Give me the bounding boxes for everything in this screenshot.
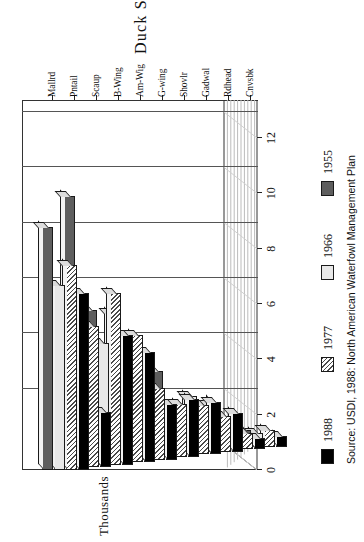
y-tick-mark [257, 248, 262, 249]
legend-item[interactable]: 1977 [318, 326, 334, 372]
legend-swatch-1988 [321, 449, 334, 464]
bar [276, 436, 287, 447]
legend-label: 1966 [321, 234, 335, 258]
x-axis-title: Duck Species [132, 0, 150, 54]
x-tick-label: Pntail [69, 75, 79, 97]
gridline [22, 111, 258, 112]
x-tick-label: Cnvsbk [245, 69, 255, 97]
bar [264, 430, 275, 447]
x-tick-label: Am-Wig [135, 64, 145, 97]
gridline [22, 166, 258, 167]
y-axis-title: Thousands [96, 476, 112, 536]
bar [210, 402, 221, 455]
bar [122, 335, 133, 465]
legend-label: 1955 [321, 150, 335, 174]
legend-swatch-1977 [321, 357, 334, 372]
y-tick-mark [257, 414, 262, 415]
legend-item[interactable]: 1988 [318, 418, 334, 464]
bar [166, 404, 177, 459]
x-tick-label: Gadwal [201, 68, 211, 97]
bar [66, 265, 77, 470]
chart-legend: 1988197719661955 [318, 124, 336, 464]
y-tick-mark [257, 303, 262, 304]
y-tick-label: 12 [264, 127, 279, 149]
x-tick-label: Mallrd [47, 72, 57, 97]
x-tick-label: B-Wing [113, 67, 123, 97]
legend-label: 1988 [321, 418, 335, 442]
legend-label: 1977 [321, 326, 335, 350]
source-note: Source: USDI, 1988: North American Water… [345, 155, 357, 464]
bar [242, 433, 253, 450]
plot-area [22, 100, 258, 470]
legend-item[interactable]: 1966 [318, 234, 334, 280]
bar [42, 227, 53, 470]
legend-swatch-1966 [321, 265, 334, 280]
chart-figure: Thousands 024681012 MallrdPntailScaupB-W… [0, 0, 364, 542]
legend-item[interactable]: 1955 [318, 150, 334, 196]
bar [154, 388, 165, 460]
bar [254, 438, 265, 449]
rotated-figure-wrapper: Thousands 024681012 MallrdPntailScaupB-W… [0, 0, 364, 542]
x-tick-label: G-wing [157, 69, 167, 97]
bar [100, 412, 111, 467]
y-tick-mark [257, 192, 262, 193]
bar-top-face [38, 220, 43, 469]
gridline [22, 277, 258, 278]
y-tick-mark [257, 358, 262, 359]
y-tick-mark [257, 137, 262, 138]
x-tick-label: Rdhead [223, 69, 233, 97]
bar [220, 416, 231, 452]
bar [144, 352, 155, 463]
x-tick-label: Shovlr [179, 72, 189, 97]
x-tick-label: Scaup [91, 74, 101, 97]
y-tick-label: 2 [264, 404, 279, 426]
bar [188, 399, 199, 457]
y-tick-mark [257, 469, 262, 470]
bar [132, 335, 143, 462]
y-tick-label: 6 [264, 293, 279, 315]
bar [54, 285, 65, 470]
bar [198, 405, 209, 455]
y-tick-label: 8 [264, 238, 279, 260]
bar [232, 413, 243, 452]
bar [176, 404, 187, 457]
bar [110, 293, 121, 465]
bar [78, 293, 89, 470]
y-tick-label: 4 [264, 348, 279, 370]
bar [88, 326, 99, 467]
gridline [22, 222, 258, 223]
y-tick-label: 0 [264, 459, 279, 481]
y-tick-label: 10 [264, 182, 279, 204]
legend-swatch-1955 [321, 181, 334, 196]
